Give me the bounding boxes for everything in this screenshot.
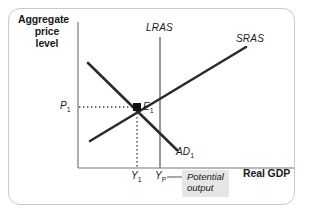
equilibrium-point-subscript: 1 xyxy=(150,107,154,114)
potential-output-callout: Potential output xyxy=(182,170,229,197)
potential-output-tick-subscript: P xyxy=(162,176,167,183)
y-axis-title-line3: level xyxy=(36,37,59,49)
figure-root: Aggregatepricelevel Real GDP LRAS SRAS A… xyxy=(0,0,310,221)
potential-output-tick-text: Y xyxy=(155,170,162,181)
lras-curve-label: LRAS xyxy=(146,22,173,33)
ad-curve xyxy=(88,63,177,150)
ad-curve-label-subscript: 1 xyxy=(190,152,194,159)
sras-curve-label: SRAS xyxy=(236,33,264,44)
potential-output-tick-label: YP xyxy=(155,170,166,184)
y-axis-title-line2: price xyxy=(35,25,60,37)
y-axis-title: Aggregatepricelevel xyxy=(18,14,76,49)
output-tick-subscript: 1 xyxy=(138,176,142,183)
output-tick-label: Y1 xyxy=(131,170,142,184)
price-level-tick-label: P1 xyxy=(60,100,71,114)
x-axis-title: Real GDP xyxy=(243,168,290,180)
ad-curve-label-text: AD xyxy=(176,146,190,157)
ad-curve-label: AD1 xyxy=(176,146,194,160)
equilibrium-point-label: E1 xyxy=(143,101,154,115)
equilibrium-point-marker xyxy=(133,103,141,111)
output-tick-text: Y xyxy=(131,170,138,181)
price-level-tick-subscript: 1 xyxy=(67,106,71,113)
sras-curve xyxy=(90,47,246,141)
equilibrium-point-text: E xyxy=(143,101,150,112)
price-level-tick-text: P xyxy=(60,100,67,111)
